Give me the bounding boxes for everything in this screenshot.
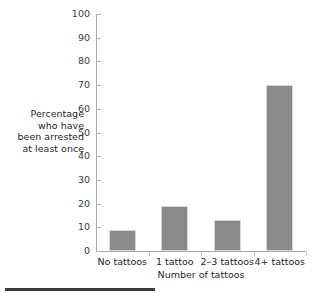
plot-area: 0102030405060708090100 No tattoos1 tatto… [96,14,306,251]
y-axis-tick-mark [97,109,101,110]
y-axis-tick-label: 30 [78,175,90,185]
y-axis-tick-label: 10 [78,223,90,233]
y-axis-tick-label: 50 [78,128,90,138]
y-axis-tick-mark [97,85,101,86]
x-axis-category-label: No tattoos [97,257,147,267]
y-axis-tick-label: 40 [78,151,90,161]
x-axis-category-label: 4+ tattoos [254,257,305,267]
y-axis-tick-mark [97,14,101,15]
bar-chart-figure: Percentage who have been arrested at lea… [0,0,316,297]
y-axis-tick-label: 0 [84,246,90,256]
y-axis-tick-mark [97,156,101,157]
y-axis-title: Percentage who have been arrested at lea… [2,108,84,154]
y-axis-title-line-4: at least once [2,143,84,155]
y-axis-tick-label: 20 [78,199,90,209]
y-axis-tick-mark [97,204,101,205]
y-axis-tick-mark [97,180,101,181]
bar [161,206,188,251]
x-axis-category-label: 2–3 tattoos [201,257,254,267]
y-axis-tick-mark [97,38,101,39]
x-axis-tick-mark [306,252,307,256]
y-axis-tick-label: 90 [78,33,90,43]
y-axis-tick-mark [97,133,101,134]
x-axis-category-label: 1 tattoo [156,257,194,267]
bottom-divider-rule [5,288,155,291]
y-axis-tick-label: 80 [78,57,90,67]
bar [266,85,293,251]
y-axis-tick-mark [97,251,101,252]
y-axis-title-line-1: Percentage [2,108,84,120]
bar [214,220,241,251]
y-axis-title-line-3: been arrested [2,131,84,143]
x-axis-title: Number of tattoos [96,270,306,280]
x-axis-tick-mark [149,252,150,256]
y-axis-tick-label: 60 [78,104,90,114]
y-axis-tick-mark [97,227,101,228]
y-axis-tick-mark [97,61,101,62]
bar [109,230,136,251]
y-axis-title-line-2: who have [2,120,84,132]
y-axis-tick-label: 100 [72,9,90,19]
y-axis-tick-label: 70 [78,80,90,90]
